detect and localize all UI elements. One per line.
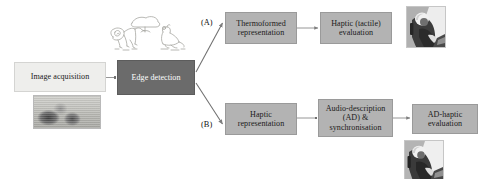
node-label: Audio-description (AD) & synchronisation	[326, 104, 386, 131]
node-label: Haptic (tactile) evaluation	[331, 19, 381, 37]
node-haptic-tactile-evaluation[interactable]: Haptic (tactile) evaluation	[320, 12, 392, 44]
workflow-diagram: Image acquisition Edge detection Thermof…	[0, 0, 499, 179]
edge-detection-to-thermoformed	[196, 23, 223, 72]
node-label: Haptic representation	[238, 110, 285, 128]
node-label: Thermoformed representation	[236, 19, 286, 37]
node-ad-haptic-evaluation[interactable]: AD-haptic evaluation	[412, 104, 478, 134]
node-audio-description-synchronisation[interactable]: Audio-description (AD) & synchronisation	[318, 99, 393, 137]
node-label: AD-haptic evaluation	[428, 110, 463, 128]
node-thermoformed-representation[interactable]: Thermoformed representation	[225, 12, 297, 44]
source-photograph	[33, 95, 101, 129]
edge-detected-line-art-icon	[105, 10, 191, 58]
photo-texture-overlay	[34, 96, 100, 128]
ad-haptic-evaluation-photo	[404, 140, 444, 179]
branch-label-a: (A)	[201, 18, 213, 27]
node-label: Edge detection	[131, 73, 180, 82]
tactile-evaluation-photo	[406, 6, 446, 48]
node-edge-detection[interactable]: Edge detection	[117, 60, 195, 95]
node-label: Image acquisition	[31, 72, 90, 81]
edge-detection-to-haptic-representation	[196, 83, 223, 124]
node-haptic-representation[interactable]: Haptic representation	[225, 103, 297, 135]
branch-label-b: (B)	[201, 120, 212, 129]
node-image-acquisition[interactable]: Image acquisition	[14, 62, 106, 92]
